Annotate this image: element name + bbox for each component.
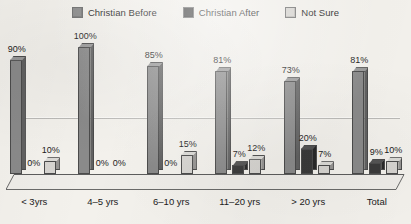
bar-front-face (232, 165, 244, 174)
x-axis-tick-label-1: < 3yrs (0, 196, 69, 214)
bar-slot-not-sure: 12% (249, 20, 264, 196)
bar-value-label: 7% (308, 149, 342, 159)
bar-christian-before[interactable] (10, 60, 22, 174)
bar-front-face (44, 161, 56, 174)
legend-item-christian-after: Christian After (183, 7, 259, 18)
bar-slot-christian-before: 100% (78, 20, 93, 196)
bar-slot-not-sure: 15% (181, 20, 196, 196)
chart-group-6: 81%9%10% (343, 20, 411, 196)
bar-value-label: 12% (239, 143, 273, 153)
bar-not-sure[interactable] (318, 165, 330, 174)
x-axis-labels: < 3yrs4–5 yrs6–10 yrs11–20 yrs> 20 yrsTo… (0, 196, 411, 214)
bar-slot-christian-before: 73% (284, 20, 299, 196)
bar-front-face (249, 159, 261, 174)
bar-value-label: 10% (376, 145, 410, 155)
legend-item-christian-before: Christian Before (72, 7, 157, 18)
bar-christian-after[interactable] (369, 163, 381, 174)
bar-side-face (90, 43, 94, 170)
bar-front-face (369, 163, 381, 174)
chart-plot-area: 90%0%10%100%0%0%85%0%15%81%7%12%73%20%7%… (0, 20, 411, 196)
legend-swatch-icon (285, 7, 296, 18)
bar-slot-christian-before: 90% (10, 20, 25, 196)
bar-not-sure[interactable] (44, 161, 56, 174)
chart-group-1: 90%0%10% (0, 20, 69, 196)
bar-front-face (386, 161, 398, 174)
bar-slot-not-sure: 7% (318, 20, 333, 196)
chart-group-4: 81%7%12% (206, 20, 275, 196)
chart-group-2: 100%0%0% (69, 20, 138, 196)
bar-value-label: 10% (34, 145, 68, 155)
x-axis-tick-label-3: 6–10 yrs (137, 196, 206, 214)
bar-slot-christian-after: 20% (301, 20, 316, 196)
bar-side-face (22, 56, 26, 170)
x-axis-tick-label-5: > 20 yrs (274, 196, 343, 214)
bar-slot-christian-before: 85% (147, 20, 162, 196)
x-axis-tick-label-2: 4–5 yrs (69, 196, 138, 214)
bar-front-face (318, 165, 330, 174)
bar-christian-after[interactable] (232, 165, 244, 174)
bar-side-face (296, 77, 300, 170)
bar-slot-not-sure: 0% (112, 20, 127, 196)
x-axis-tick-label-6: Total (343, 196, 411, 214)
bar-front-face (352, 71, 364, 174)
bar-christian-before[interactable] (78, 47, 90, 174)
chart-legend: Christian Before Christian After Not Sur… (0, 4, 411, 20)
bar-slot-not-sure: 10% (44, 20, 59, 196)
legend-label: Christian After (199, 7, 259, 18)
bar-slot-christian-before: 81% (352, 20, 367, 196)
bar-slot-christian-before: 81% (215, 20, 230, 196)
bar-front-face (181, 155, 193, 174)
bar-side-face (159, 62, 163, 170)
bar-not-sure[interactable] (181, 155, 193, 174)
chart-group-3: 85%0%15% (137, 20, 206, 196)
legend-swatch-icon (183, 7, 194, 18)
legend-item-not-sure: Not Sure (285, 7, 339, 18)
chart-group-5: 73%20%7% (274, 20, 343, 196)
bar-christian-before[interactable] (352, 71, 364, 174)
bar-christian-before[interactable] (284, 81, 296, 174)
legend-swatch-icon (72, 7, 83, 18)
bar-slot-christian-after: 0% (95, 20, 110, 196)
bar-front-face (78, 47, 90, 174)
bar-not-sure[interactable] (249, 159, 261, 174)
bar-value-label: 15% (171, 139, 205, 149)
bar-slot-christian-after: 0% (164, 20, 179, 196)
bar-slot-christian-after: 9% (369, 20, 384, 196)
bar-front-face (10, 60, 22, 174)
x-axis-tick-label-4: 11–20 yrs (206, 196, 275, 214)
bar-front-face (284, 81, 296, 174)
legend-label: Christian Before (88, 7, 157, 18)
bar-slot-christian-after: 0% (27, 20, 42, 196)
bar-slot-not-sure: 10% (386, 20, 401, 196)
bar-slot-christian-after: 7% (232, 20, 247, 196)
bar-value-label: 0% (102, 158, 136, 168)
chart-groups: 90%0%10%100%0%0%85%0%15%81%7%12%73%20%7%… (0, 20, 411, 196)
bar-not-sure[interactable] (386, 161, 398, 174)
legend-label: Not Sure (301, 7, 339, 18)
